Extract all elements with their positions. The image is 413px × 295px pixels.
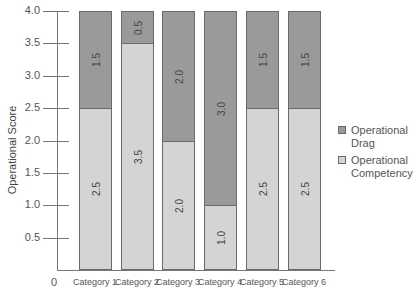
y-tick [43, 108, 69, 109]
y-axis-title-text: Operational Score [6, 106, 18, 195]
bar-4: 3.01.0 [204, 11, 237, 270]
y-tick [43, 76, 69, 77]
y-tick [43, 141, 69, 142]
legend-item-drag: Operational Drag [338, 124, 408, 150]
y-tick-label: 0.5 [14, 231, 40, 243]
bar-value-label: 1.5 [257, 53, 268, 67]
y-tick-label: 1.0 [14, 198, 40, 210]
bar-value-label: 1.0 [215, 231, 226, 245]
bar-3: 2.02.0 [162, 11, 195, 270]
y-tick [43, 205, 69, 206]
bar-segment-drag: 2.0 [162, 11, 195, 142]
bar-segment-competency: 2.0 [162, 141, 195, 270]
y-axis-zero-label: 0 [51, 276, 57, 288]
bar-value-label: 1.5 [299, 53, 310, 67]
bar-value-label: 3.0 [215, 102, 226, 116]
bar-5: 1.52.5 [246, 11, 279, 270]
bar-value-label: 1.5 [90, 53, 101, 67]
bar-6: 1.52.5 [288, 11, 321, 270]
y-tick-label: 2.5 [14, 101, 40, 113]
y-tick [43, 11, 69, 12]
bar-value-label: 2.0 [173, 199, 184, 213]
x-axis-line [57, 270, 335, 271]
legend-swatch-drag [338, 126, 346, 134]
legend-label-line2: Drag [351, 137, 408, 150]
bar-value-label: 3.5 [132, 150, 143, 164]
y-tick [43, 238, 69, 239]
legend: Operational Drag Operational Competency [338, 124, 408, 184]
y-tick-label: 2.0 [14, 134, 40, 146]
y-tick-label: 3.0 [14, 69, 40, 81]
bar-segment-competency: 2.5 [246, 108, 279, 270]
bar-segment-competency: 1.0 [204, 205, 237, 270]
y-tick-label: 1.5 [14, 166, 40, 178]
bar-value-label: 0.5 [132, 21, 143, 35]
y-tick [43, 43, 69, 44]
legend-swatch-competency [338, 156, 346, 164]
bar-value-label: 2.0 [173, 70, 184, 84]
bar-segment-competency: 2.5 [79, 108, 112, 270]
bar-1: 1.52.5 [79, 11, 112, 270]
bar-segment-competency: 3.5 [121, 43, 154, 270]
y-tick-label: 4.0 [14, 4, 40, 16]
y-tick-label: 3.5 [14, 36, 40, 48]
bar-value-label: 2.5 [90, 182, 101, 196]
legend-label-line1: Operational [351, 124, 408, 137]
bar-2: 0.53.5 [121, 11, 154, 270]
bar-segment-drag: 1.5 [246, 11, 279, 109]
bar-value-label: 2.5 [257, 182, 268, 196]
bar-value-label: 2.5 [299, 182, 310, 196]
legend-label-line1: Operational [351, 154, 408, 167]
y-tick [43, 173, 69, 174]
bar-segment-drag: 1.5 [288, 11, 321, 109]
bar-segment-drag: 0.5 [121, 11, 154, 44]
bar-segment-competency: 2.5 [288, 108, 321, 270]
legend-item-competency: Operational Competency [338, 154, 408, 180]
bar-segment-drag: 1.5 [79, 11, 112, 109]
x-tick-label: Category 6 [279, 277, 329, 287]
legend-label-line2: Competency [351, 167, 408, 180]
bar-segment-drag: 3.0 [204, 11, 237, 206]
